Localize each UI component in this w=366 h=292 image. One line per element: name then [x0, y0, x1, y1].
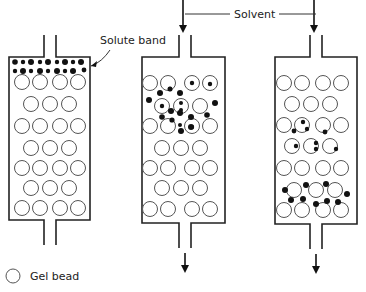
gel-bead-legend-icon — [6, 269, 20, 283]
solute-particle — [146, 97, 152, 103]
gel-bead — [334, 161, 349, 176]
gel-bead — [334, 76, 349, 91]
gel-bead — [33, 201, 48, 216]
solute-particle — [282, 187, 288, 193]
solute-particle — [29, 69, 33, 73]
column-3 — [275, 0, 357, 274]
solute-particle — [21, 60, 25, 64]
gel-bead — [185, 161, 200, 176]
gel-bead — [53, 201, 68, 216]
gel-bead — [304, 97, 319, 112]
solute-particle — [323, 130, 328, 135]
solute-band-pointer — [91, 50, 110, 66]
solute-particle — [177, 90, 183, 96]
column-1 — [9, 35, 90, 245]
arrow-down-icon — [181, 265, 189, 273]
gel-bead — [304, 139, 319, 154]
arrow-down-icon — [312, 266, 320, 274]
gel-bead — [334, 203, 349, 218]
solute-particle — [54, 68, 60, 74]
arrow-down-icon — [310, 25, 318, 33]
solute-band-label-group: Solute band — [91, 34, 166, 67]
columns-group — [9, 0, 357, 274]
gel-bead — [316, 118, 331, 133]
solute-particle — [303, 182, 309, 188]
gel-bead — [62, 97, 77, 112]
gel-bead — [285, 97, 300, 112]
gel-bead — [71, 161, 86, 176]
gel-bead — [174, 141, 189, 156]
gel-bead — [143, 202, 158, 217]
gel-bead — [309, 183, 324, 198]
solute-particle — [63, 69, 67, 73]
solute-particle — [188, 114, 194, 120]
solute-particle — [204, 112, 210, 118]
gel-bead — [334, 118, 349, 133]
trapped-solute-particle — [179, 108, 183, 112]
gel-bead — [143, 76, 158, 91]
gel-bead — [15, 161, 30, 176]
gel-bead — [53, 119, 68, 134]
gel-bead — [24, 141, 39, 156]
gel-bead — [143, 119, 158, 134]
trapped-solute-particle — [190, 81, 194, 85]
solute-particle — [13, 69, 17, 73]
gel-bead — [53, 75, 68, 90]
gel-bead — [174, 181, 189, 196]
gel-bead — [143, 161, 158, 176]
solute-particle — [82, 68, 87, 73]
gel-bead — [323, 139, 338, 154]
gel-bead — [15, 119, 30, 134]
trapped-solute-particle — [305, 127, 309, 131]
solute-particle — [12, 59, 18, 65]
solute-particle — [28, 59, 34, 65]
solute-band-label: Solute band — [100, 34, 166, 47]
gel-bead — [277, 118, 292, 133]
trapped-solute-particle — [190, 125, 194, 129]
gel-bead — [15, 201, 30, 216]
gel-bead — [33, 75, 48, 90]
trapped-solute-particle — [179, 101, 183, 105]
trapped-solute-particle — [208, 82, 212, 86]
solute-particle — [45, 59, 51, 65]
trapped-solute-particle — [301, 120, 305, 124]
gel-bead — [323, 97, 338, 112]
gel-bead — [185, 202, 200, 217]
trapped-solute-particle — [160, 104, 164, 108]
solute-particle — [178, 123, 182, 127]
solute-particle — [344, 191, 350, 197]
gel-bead — [295, 76, 310, 91]
trapped-solute-particle — [314, 147, 318, 151]
solute-particle — [55, 60, 59, 64]
gel-bead — [43, 97, 58, 112]
legend: Gel bead — [6, 269, 79, 283]
gel-bead — [328, 183, 343, 198]
solute-particle — [335, 199, 341, 205]
gel-bead — [62, 181, 77, 196]
trapped-solute-particle — [334, 147, 338, 151]
solute-particle — [168, 108, 174, 114]
gel-bead — [155, 141, 170, 156]
solute-particle — [169, 117, 174, 122]
trapped-solute-particle — [294, 144, 298, 148]
gel-bead — [277, 203, 292, 218]
gel-bead — [193, 99, 208, 114]
gel-bead — [193, 141, 208, 156]
gel-bead — [161, 202, 176, 217]
gel-bead — [43, 141, 58, 156]
gel-bead — [62, 141, 77, 156]
gel-bead — [33, 161, 48, 176]
solute-particle — [300, 196, 306, 202]
gel-bead — [316, 161, 331, 176]
solvent-label: Solvent — [234, 8, 276, 21]
gel-bead — [43, 181, 58, 196]
solute-particle — [157, 90, 163, 96]
gel-bead — [24, 97, 39, 112]
gel-bead — [155, 181, 170, 196]
solute-particle — [38, 60, 42, 64]
gel-bead — [277, 76, 292, 91]
solute-particle — [78, 59, 84, 65]
trapped-solute-particle — [168, 87, 172, 91]
gel-bead — [295, 203, 310, 218]
solvent-label-group: Solvent — [185, 8, 316, 21]
